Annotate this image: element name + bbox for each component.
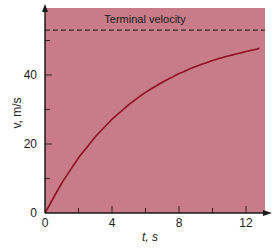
x-tick-label: 8 bbox=[176, 216, 183, 230]
x-tick-label: 4 bbox=[109, 216, 116, 230]
y-tick-label: 0 bbox=[30, 206, 37, 220]
x-tick-label: 0 bbox=[42, 216, 49, 230]
y-axis-label: v, m/s bbox=[10, 97, 24, 128]
y-tick-label: 40 bbox=[24, 68, 38, 82]
x-axis-label: t, s bbox=[142, 230, 158, 244]
velocity-time-chart: Terminal velocity 0481202040 t, s v, m/s bbox=[0, 0, 275, 249]
x-tick-label: 12 bbox=[239, 216, 253, 230]
plot-background bbox=[45, 8, 265, 213]
x-axis-arrow-icon bbox=[263, 210, 272, 216]
y-tick-label: 20 bbox=[24, 137, 38, 151]
terminal-velocity-label: Terminal velocity bbox=[104, 13, 186, 25]
